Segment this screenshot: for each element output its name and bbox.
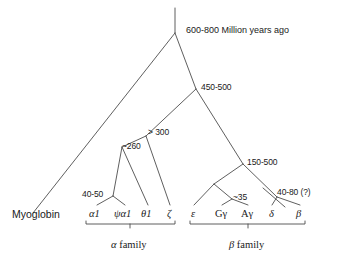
beta-family-label: β family [229,240,264,251]
node-label-delta-beta-age: 40-80 (?) [277,188,311,197]
leaf-label-a-gamma: Aγ [241,209,253,220]
alpha-family-bracket [86,221,175,224]
leaf-label-epsilon: ε [191,209,195,220]
branch-260-to-4050 [113,147,122,196]
leaf-label-psi-alpha1: ψα1 [114,209,131,220]
branch-root-to-myoglobin [33,33,175,213]
leaf-label-alpha1: α1 [89,209,100,220]
node-label-root-age: 600-800 Million years ago [186,26,289,35]
tree-lines [0,0,340,265]
branch-35-to-ggamma [222,199,232,205]
node-label-alpha-theta-age: ~260 [122,142,141,151]
beta-family-bracket [190,221,305,224]
branch-root-to-globin [175,33,196,89]
branch-beta-to-deltaclade [243,164,277,197]
leaf-label-beta: β [296,209,301,220]
branch-beta-to-gammaclade [214,164,243,184]
beta-family-label-word: family [234,239,264,250]
node-label-alpha-zeta-age: > 300 [148,128,169,137]
branch-globin-to-beta [196,89,243,164]
branch-4050-to-psialpha1 [113,196,125,205]
leaf-label-g-gamma: Gγ [215,209,227,220]
branch-gammaclade-to-epsilon [194,184,214,205]
alpha-family-label: α family [111,240,147,251]
branch-gammaclade-to-35 [214,184,232,199]
node-label-gamma-dup-age: ~35 [233,193,247,202]
node-label-globin-age: 450-500 [201,83,232,92]
leaf-label-zeta: ζ [167,209,171,220]
branch-4080-to-beta [277,197,300,205]
leaf-label-myoglobin: Myoglobin [12,209,60,220]
branch-300-to-zeta [146,136,170,205]
leaf-label-delta: δ [269,209,274,220]
node-label-beta-root-age: 150-500 [247,158,278,167]
alpha-family-label-word: family [117,239,147,250]
leaf-label-theta1: θ1 [141,209,151,220]
branch-260-to-theta1 [122,147,148,205]
phylogeny-figure: 600-800 Million years ago 450-500 > 300 … [0,0,340,265]
node-label-alpha-dup-age: 40-50 [82,190,103,199]
